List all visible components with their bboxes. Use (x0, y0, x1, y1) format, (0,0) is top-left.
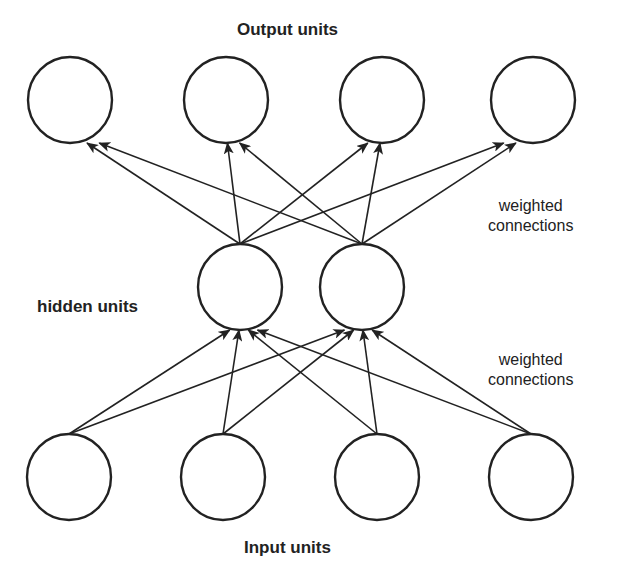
output-unit-4 (491, 57, 575, 143)
input-unit-1 (27, 434, 111, 520)
connection-arrow (248, 330, 377, 434)
input-unit-4 (489, 434, 573, 520)
output-unit-3 (340, 57, 424, 143)
units (27, 57, 575, 520)
output-units-label: Output units (237, 20, 338, 40)
weighted-connections-bottom-line2: connections (488, 370, 573, 390)
input-unit-3 (335, 434, 419, 520)
hidden-unit-2 (320, 244, 404, 330)
input-units-label: Input units (244, 538, 331, 558)
connection-arrow (223, 330, 354, 434)
connection-arrow (223, 330, 239, 434)
hidden-unit-1 (198, 244, 282, 330)
network-diagram (0, 0, 622, 577)
weighted-connections (69, 143, 531, 434)
weighted-connections-bottom-label: weighted connections (488, 350, 573, 390)
connection-arrow (362, 143, 380, 244)
connection-arrow (240, 143, 504, 244)
connection-arrow (363, 330, 377, 434)
connection-arrow (87, 143, 240, 244)
output-unit-1 (28, 57, 112, 143)
input-unit-2 (181, 434, 265, 520)
weighted-connections-top-label: weighted connections (488, 196, 573, 236)
weighted-connections-top-line1: weighted (488, 196, 573, 216)
weighted-connections-bottom-line1: weighted (488, 350, 573, 370)
connection-arrow (99, 143, 362, 244)
weighted-connections-top-line2: connections (488, 216, 573, 236)
hidden-units-label: hidden units (37, 297, 138, 317)
output-unit-2 (184, 57, 268, 143)
